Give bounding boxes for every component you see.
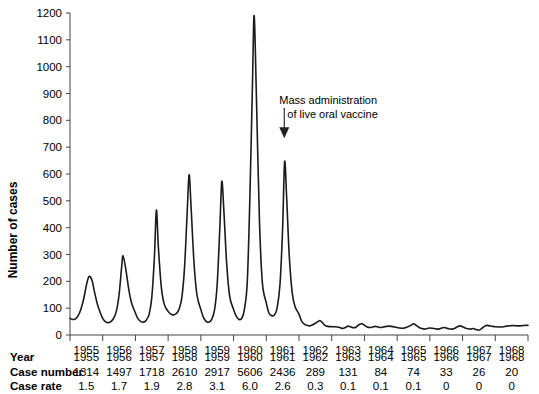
- table-cell: 1955: [74, 351, 100, 363]
- table-cell: 1314: [74, 366, 100, 378]
- table-cell: 1.7: [111, 380, 127, 392]
- table-cell: 0: [443, 380, 449, 392]
- table-cell: 5606: [237, 366, 263, 378]
- table-cell: 1958: [172, 351, 198, 363]
- y-axis-tick-label: 1100: [37, 34, 62, 46]
- table-cell: 1965: [401, 351, 427, 363]
- table-cell: 3.1: [209, 380, 225, 392]
- table-cell: 0: [508, 380, 514, 392]
- table-cell: 1963: [335, 351, 361, 363]
- table-cell: 1967: [466, 351, 492, 363]
- table-row-label: Case rate: [10, 380, 62, 392]
- y-axis-tick-label: 300: [43, 249, 62, 261]
- chart-canvas: 0100200300400500600700800900100011001200…: [0, 0, 539, 394]
- table-cell: 1956: [106, 351, 132, 363]
- y-axis-tick-label: 800: [43, 114, 62, 126]
- table-cell: 1957: [139, 351, 165, 363]
- y-axis-tick-label: 100: [43, 302, 62, 314]
- table-cell: 0.1: [373, 380, 389, 392]
- table-cell: 6.0: [242, 380, 258, 392]
- table-cell: 2436: [270, 366, 296, 378]
- table-cell: 289: [306, 366, 325, 378]
- y-axis-tick-label: 1200: [36, 7, 62, 19]
- table-cell: 1962: [303, 351, 329, 363]
- table-cell: 1.9: [144, 380, 160, 392]
- table-cell: 1966: [433, 351, 459, 363]
- table-cell: 1964: [368, 351, 394, 363]
- y-axis: 0100200300400500600700800900100011001200: [36, 7, 70, 341]
- table-cell: 1.5: [78, 380, 94, 392]
- y-axis-tick-label: 700: [43, 141, 62, 153]
- table-cell: 1960: [237, 351, 263, 363]
- table-cell: 0: [476, 380, 482, 392]
- table-cell: 84: [374, 366, 387, 378]
- table-cell: 20: [505, 366, 518, 378]
- series-line-number-of-cases: [70, 15, 528, 330]
- table-cell: 1497: [106, 366, 132, 378]
- table-row-label: Case number: [10, 366, 83, 378]
- table-cell: 74: [407, 366, 420, 378]
- table-cell: 2.8: [177, 380, 193, 392]
- y-axis-tick-label: 400: [43, 222, 62, 234]
- y-axis-tick-label: 0: [56, 329, 62, 341]
- y-axis-tick-label: 500: [43, 195, 62, 207]
- annotation-text-line1: Mass administration: [279, 94, 377, 106]
- table-cell: 2.6: [275, 380, 291, 392]
- table-cell: 1961: [270, 351, 296, 363]
- annotation-group: Mass administrationof live oral vaccine: [279, 94, 378, 138]
- table-cell: 26: [473, 366, 486, 378]
- table-cell: 0.1: [340, 380, 356, 392]
- polio-cases-figure: 0100200300400500600700800900100011001200…: [0, 0, 539, 394]
- table-cell: 1959: [204, 351, 230, 363]
- data-table: YearCase numberCase rate195513141.519561…: [10, 351, 524, 392]
- down-arrow-icon: [279, 127, 289, 138]
- annotation-text-line2: of live oral vaccine: [287, 108, 378, 120]
- y-axis-title: Number of cases: [6, 181, 20, 278]
- y-axis-tick-label: 600: [43, 168, 62, 180]
- y-axis-tick-label: 1000: [36, 61, 62, 73]
- table-cell: 1968: [499, 351, 525, 363]
- data-series-line: [70, 15, 528, 330]
- table-cell: 1718: [139, 366, 165, 378]
- table-cell: 2917: [204, 366, 230, 378]
- table-cell: 0.1: [406, 380, 422, 392]
- y-axis-tick-label: 200: [43, 275, 62, 287]
- table-row-label: Year: [10, 351, 35, 363]
- table-cell: 2610: [172, 366, 198, 378]
- table-cell: 33: [440, 366, 453, 378]
- table-cell: 0.3: [307, 380, 323, 392]
- y-axis-tick-label: 900: [43, 88, 62, 100]
- table-cell: 131: [338, 366, 357, 378]
